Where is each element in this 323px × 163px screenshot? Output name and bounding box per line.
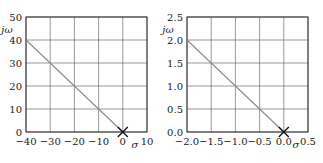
x-tick-label: −20 — [64, 136, 85, 147]
y-tick-label: 0 — [16, 127, 22, 138]
y-axis-label: jω — [0, 24, 13, 35]
x-tick-label: −40 — [15, 136, 36, 147]
x-tick-label: 0.5 — [300, 136, 316, 147]
x-tick-label: −2.0 — [175, 136, 199, 147]
y-tick-label: 20 — [9, 81, 22, 92]
y-tick-label: 40 — [9, 35, 22, 46]
plot-frame — [26, 17, 147, 132]
x-axis-label: σ — [292, 139, 300, 150]
x-tick-label: 0 — [120, 136, 126, 147]
y-tick-label: 30 — [9, 58, 22, 69]
y-tick-label: 50 — [9, 12, 22, 23]
y-tick-label: 1.0 — [167, 81, 183, 92]
y-tick-label: 0.0 — [167, 127, 183, 138]
x-tick-label: −30 — [40, 136, 61, 147]
plot-2: −2.0−1.5−1.0−0.50.00.50.00.51.01.52.02.5… — [160, 12, 316, 151]
x-tick-label: −10 — [88, 136, 109, 147]
x-tick-label: 10 — [141, 136, 154, 147]
x-tick-label: −0.5 — [247, 136, 271, 147]
x-axis-label: σ — [131, 139, 139, 150]
y-axis-label: jω — [160, 24, 173, 35]
plot-frame — [187, 17, 308, 132]
plot-1: −40−30−20−1001001020304050jωσ — [0, 12, 153, 151]
root-locus-figure: −40−30−20−1001001020304050jωσ−2.0−1.5−1.… — [0, 0, 323, 163]
y-tick-label: 2.0 — [167, 35, 183, 46]
x-tick-label: 0.0 — [276, 136, 292, 147]
x-tick-label: −1.5 — [199, 136, 223, 147]
y-tick-label: 1.5 — [167, 58, 183, 69]
x-tick-label: −1.0 — [223, 136, 247, 147]
y-tick-label: 0.5 — [167, 104, 183, 115]
y-tick-label: 2.5 — [167, 12, 183, 23]
y-tick-label: 10 — [9, 104, 22, 115]
